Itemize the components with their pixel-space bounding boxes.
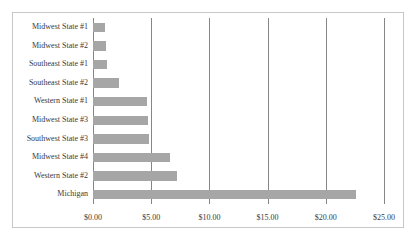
category-label: Midwest State #3 xyxy=(0,113,88,127)
bar-row: Southeast State #2 xyxy=(93,74,384,93)
x-axis-tick-label: $25.00 xyxy=(354,212,414,224)
bar-row: Western State #1 xyxy=(93,92,384,111)
bar xyxy=(93,97,147,106)
x-axis-tick-label: $5.00 xyxy=(121,212,181,224)
x-axis-tick-label: $15.00 xyxy=(238,212,298,224)
category-label: Western State #2 xyxy=(0,169,88,183)
bar xyxy=(93,153,170,162)
x-axis-tick-label: $0.00 xyxy=(63,212,123,224)
chart-frame: Midwest State #1Midwest State #2Southeas… xyxy=(12,12,404,228)
bar-row: Midwest State #1 xyxy=(93,18,384,37)
category-label: Southwest State #3 xyxy=(0,132,88,146)
bar-row: Midwest State #2 xyxy=(93,37,384,56)
bar-row: Southwest State #3 xyxy=(93,130,384,149)
category-label: Midwest State #1 xyxy=(0,20,88,34)
bar-row: Western State #2 xyxy=(93,167,384,186)
bar-row: Midwest State #3 xyxy=(93,111,384,130)
bar-row: Midwest State #4 xyxy=(93,148,384,167)
bar xyxy=(93,171,177,180)
bar-row: Michigan xyxy=(93,185,384,204)
bar xyxy=(93,116,148,125)
x-axis-tick-label: $20.00 xyxy=(296,212,356,224)
category-label: Midwest State #2 xyxy=(0,39,88,53)
bar xyxy=(93,190,356,199)
category-label: Southeast State #1 xyxy=(0,57,88,71)
bar xyxy=(93,60,107,69)
category-label: Southeast State #2 xyxy=(0,76,88,90)
bar xyxy=(93,41,106,50)
bar-row: Southeast State #1 xyxy=(93,55,384,74)
category-label: Western State #1 xyxy=(0,94,88,108)
bar xyxy=(93,78,119,87)
chart-plot-wrapper: Midwest State #1Midwest State #2Southeas… xyxy=(13,13,405,229)
bar xyxy=(93,134,149,143)
bar xyxy=(93,23,105,32)
gridline xyxy=(384,18,385,204)
category-label: Michigan xyxy=(0,187,88,201)
x-axis-tick-label: $10.00 xyxy=(179,212,239,224)
category-label: Midwest State #4 xyxy=(0,150,88,164)
chart-plot-area: Midwest State #1Midwest State #2Southeas… xyxy=(93,18,384,204)
